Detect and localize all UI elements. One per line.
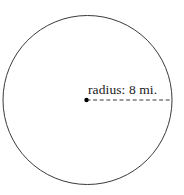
figure-drawing-area [0,0,184,195]
center-point-dot [84,98,88,102]
radius-measurement-label: radius: 8 mi. [88,82,157,97]
figure-background [0,0,184,195]
circle-radius-figure: radius: 8 mi. [0,0,184,195]
